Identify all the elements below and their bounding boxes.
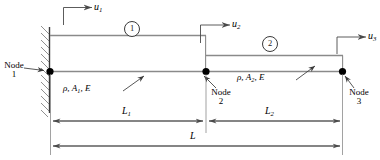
u3-subscript: 3 (373, 35, 376, 42)
node-3-label: Node 3 (346, 88, 372, 107)
u2-subscript: 2 (237, 23, 240, 30)
element-1-material-label: ρ, A1, E (63, 84, 90, 94)
element-1-body (50, 36, 206, 72)
element-2-body (206, 56, 343, 72)
element-1-material-head: ρ, A (63, 83, 77, 93)
L1-subscript: 1 (128, 110, 131, 117)
displacement-u1-label: u1 (94, 2, 102, 13)
dimension-L1-label: L1 (119, 106, 134, 117)
node-1-label: Node 1 (2, 61, 26, 80)
node-1-dot (46, 68, 53, 75)
node-2-label: Node 2 (208, 88, 234, 107)
displacement-u2-arrow (201, 25, 231, 43)
displacement-u3-label: u3 (368, 31, 376, 42)
element-1-material-leader (123, 76, 144, 91)
dimension-extension-lines (51, 74, 343, 155)
L2-subscript: 2 (271, 110, 274, 117)
element-2-material-head: ρ, A (237, 72, 251, 82)
element-2-number: 2 (262, 36, 278, 52)
stepped-bar-diagram: 1 2 u1 u2 u3 Node 1 Node 2 Node 3 ρ, A1,… (0, 0, 380, 160)
node-2-number: 2 (219, 96, 224, 106)
node-1-number: 1 (12, 69, 17, 79)
element-2-material-leader (296, 66, 315, 80)
displacement-u3-arrow (337, 37, 366, 54)
element-1-material-tail: , E (80, 83, 90, 93)
displacement-u2-label: u2 (232, 19, 240, 30)
element-2-material-tail: , E (254, 72, 264, 82)
u1-subscript: 1 (99, 6, 102, 13)
element-1-number: 1 (124, 21, 140, 37)
dimension-L2-label: L2 (262, 106, 277, 117)
element-2-material-label: ρ, A2, E (237, 73, 264, 83)
displacement-u1-arrow (64, 8, 93, 26)
node-3-number: 3 (357, 96, 362, 106)
dimension-L-label: L (186, 131, 200, 142)
L-symbol: L (190, 130, 196, 141)
